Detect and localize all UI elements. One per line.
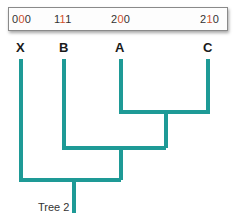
phylogenetic-tree: [0, 0, 237, 219]
branch-a-c: [121, 59, 208, 112]
branch-b: [64, 59, 166, 148]
tree-label: Tree 2: [38, 201, 69, 213]
branch-x: [21, 59, 121, 180]
